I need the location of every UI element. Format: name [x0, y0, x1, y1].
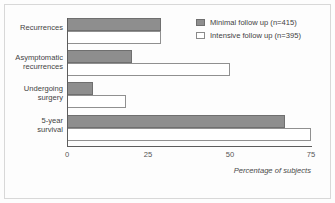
bar-asymptomatic-minimal [67, 50, 132, 63]
bar-survival-intensive [67, 128, 311, 141]
category-label-line: recurrences [0, 63, 63, 72]
category-label-asymptomatic-recurrences: Asymptomatic recurrences [0, 54, 63, 71]
bar-recurrences-minimal [67, 18, 161, 31]
x-axis-line [67, 146, 312, 147]
bar-asymptomatic-intensive [67, 63, 230, 76]
x-tick-0: 0 [65, 150, 69, 159]
legend-swatch-icon-minimal [196, 19, 205, 26]
legend-item-minimal: Minimal follow up (n=415) [196, 18, 301, 27]
legend-label-minimal: Minimal follow up (n=415) [210, 18, 297, 27]
category-label-line: surgery [0, 94, 63, 103]
category-label-line: survival [0, 126, 63, 135]
category-label-five-year-survival: 5-year survival [0, 117, 63, 134]
x-tick-50: 50 [226, 150, 234, 159]
chart-legend: Minimal follow up (n=415) Intensive foll… [196, 18, 301, 44]
category-label-line: Recurrences [0, 24, 63, 33]
x-tick-75: 75 [307, 150, 315, 159]
bar-recurrences-intensive [67, 31, 161, 44]
category-label-undergoing-surgery: Undergoing surgery [0, 85, 63, 102]
legend-item-intensive: Intensive follow up (n=395) [196, 31, 301, 40]
category-label-recurrences: Recurrences [0, 24, 63, 33]
x-axis-title: Percentage of subjects [234, 166, 311, 175]
x-tick-25: 25 [144, 150, 152, 159]
bar-surgery-intensive [67, 95, 126, 108]
y-axis-line [67, 18, 68, 146]
bar-surgery-minimal [67, 82, 93, 95]
category-axis-labels: Recurrences Asymptomatic recurrences Und… [0, 18, 63, 144]
legend-swatch-icon-intensive [196, 32, 205, 39]
legend-label-intensive: Intensive follow up (n=395) [210, 31, 301, 40]
bar-survival-minimal [67, 115, 285, 128]
bar-chart-figure: Recurrences Asymptomatic recurrences Und… [0, 0, 335, 203]
